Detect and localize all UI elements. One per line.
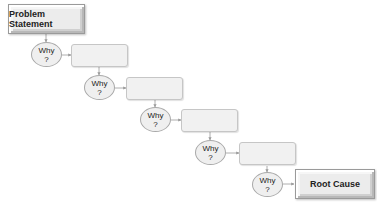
answer-box-4[interactable] xyxy=(239,142,296,165)
why-oval-2[interactable]: Why ? xyxy=(84,75,115,100)
answer-box-2[interactable] xyxy=(126,77,183,100)
question-mark: ? xyxy=(265,185,269,194)
why-label: Why xyxy=(148,111,164,120)
why-label: Why xyxy=(260,176,276,185)
question-mark: ? xyxy=(44,55,48,64)
answer-box-1[interactable] xyxy=(71,44,128,67)
problem-statement-label: Problem Statement xyxy=(9,9,84,29)
why-oval-5[interactable]: Why ? xyxy=(252,172,283,197)
problem-statement-box[interactable]: Problem Statement xyxy=(8,4,85,34)
root-cause-label: Root Cause xyxy=(310,179,360,189)
answer-box-3[interactable] xyxy=(181,109,238,132)
why-label: Why xyxy=(39,46,55,55)
why-oval-3[interactable]: Why ? xyxy=(140,107,171,132)
question-mark: ? xyxy=(97,88,101,97)
question-mark: ? xyxy=(153,120,157,129)
why-label: Why xyxy=(92,79,108,88)
why-oval-1[interactable]: Why ? xyxy=(31,42,62,67)
why-oval-4[interactable]: Why ? xyxy=(195,140,226,165)
question-mark: ? xyxy=(208,153,212,162)
why-label: Why xyxy=(203,144,219,153)
root-cause-box[interactable]: Root Cause xyxy=(295,169,375,199)
